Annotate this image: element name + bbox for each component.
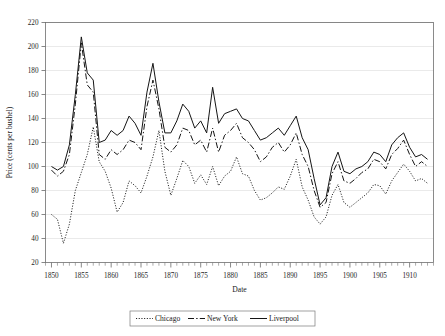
legend-label-liverpool[interactable]: Liverpool	[269, 314, 299, 323]
wheat-price-chart: Wheat Prices: Chicago, New York and Live…	[0, 0, 445, 336]
series-line-new-york	[51, 43, 427, 207]
y-axis-label: Price (cents per bushel)	[5, 106, 14, 178]
x-tick-label: 1895	[313, 272, 328, 280]
y-tick-label: 200	[28, 43, 39, 51]
x-tick-label: 1885	[253, 272, 268, 280]
legend-label-new-york[interactable]: New York	[207, 314, 238, 323]
y-tick-label: 180	[28, 67, 39, 75]
y-tick-label: 20	[31, 259, 39, 267]
y-tick-label: 80	[31, 187, 39, 195]
y-tick-label: 120	[28, 139, 39, 147]
series-line-chicago	[51, 127, 427, 243]
x-axis-ticks: 1850185518601865187018751880188518901895…	[44, 263, 433, 280]
series-lines	[51, 37, 427, 243]
x-tick-label: 1855	[74, 272, 89, 280]
y-tick-label: 100	[28, 163, 39, 171]
chart-canvas: 20406080100120140160180200220 1850185518…	[0, 0, 445, 336]
x-tick-label: 1900	[343, 272, 358, 280]
x-tick-label: 1905	[373, 272, 388, 280]
y-tick-label: 160	[28, 91, 39, 99]
x-tick-label: 1910	[402, 272, 417, 280]
x-tick-label: 1865	[134, 272, 149, 280]
x-axis-title: Date	[232, 285, 247, 294]
chart-legend[interactable]: ChicagoNew YorkLiverpool	[130, 311, 315, 326]
x-tick-label: 1880	[223, 272, 238, 280]
y-axis-title: Price (cents per bushel)	[5, 106, 14, 178]
x-axis-label: Date	[232, 285, 247, 294]
x-tick-label: 1860	[104, 272, 119, 280]
y-axis-ticks: 20406080100120140160180200220	[28, 19, 46, 267]
x-tick-label: 1850	[44, 272, 59, 280]
y-tick-label: 40	[31, 235, 39, 243]
x-tick-label: 1890	[283, 272, 298, 280]
y-tick-label: 220	[28, 19, 39, 27]
legend-label-chicago[interactable]: Chicago	[155, 314, 181, 323]
y-tick-label: 140	[28, 115, 39, 123]
x-tick-label: 1875	[194, 272, 209, 280]
y-tick-label: 60	[31, 211, 39, 219]
x-tick-label: 1870	[164, 272, 179, 280]
